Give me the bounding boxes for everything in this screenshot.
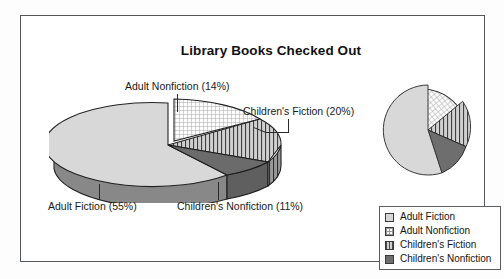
callout-label-childrens-nonfiction: Children's Nonfiction (11%) (177, 200, 303, 212)
legend-item-adult-fiction[interactable]: Adult Fiction (385, 210, 496, 224)
callout-label-childrens-fiction: Children's Fiction (20%) (243, 105, 354, 117)
leader-line-childrens-fiction-vertical (288, 119, 289, 133)
legend-label-adult-nonfiction: Adult Nonfiction (400, 226, 470, 236)
title-container: Library Books Checked Out (121, 31, 421, 61)
leader-line-adult-fiction (99, 184, 100, 200)
legend: Adult Fiction Adult Nonfiction Children'… (379, 206, 501, 270)
inset-2d-pie-chart (379, 78, 479, 183)
legend-swatch-adult-nonfiction (385, 227, 394, 236)
legend-swatch-childrens-nonfiction (385, 255, 394, 264)
legend-item-childrens-fiction[interactable]: Children's Fiction (385, 238, 496, 252)
leader-line-adult-nonfiction (177, 94, 178, 112)
legend-item-adult-nonfiction[interactable]: Adult Nonfiction (385, 224, 496, 238)
callout-label-adult-fiction: Adult Fiction (55%) (48, 200, 137, 212)
legend-swatch-childrens-fiction (385, 241, 394, 250)
leader-line-childrens-fiction-horizontal (265, 132, 289, 133)
page-title: Library Books Checked Out (121, 43, 421, 58)
leader-line-childrens-nonfiction (218, 182, 219, 200)
legend-label-childrens-nonfiction: Children's Nonfiction (400, 254, 491, 264)
chart-frame: Library Books Checked Out (20, 15, 485, 262)
legend-label-adult-fiction: Adult Fiction (400, 212, 455, 222)
callout-label-adult-nonfiction: Adult Nonfiction (14%) (125, 80, 229, 92)
legend-item-childrens-nonfiction[interactable]: Children's Nonfiction (385, 252, 496, 266)
legend-swatch-adult-fiction (385, 213, 394, 222)
legend-label-childrens-fiction: Children's Fiction (400, 240, 476, 250)
inset-pie-slices (383, 78, 470, 175)
